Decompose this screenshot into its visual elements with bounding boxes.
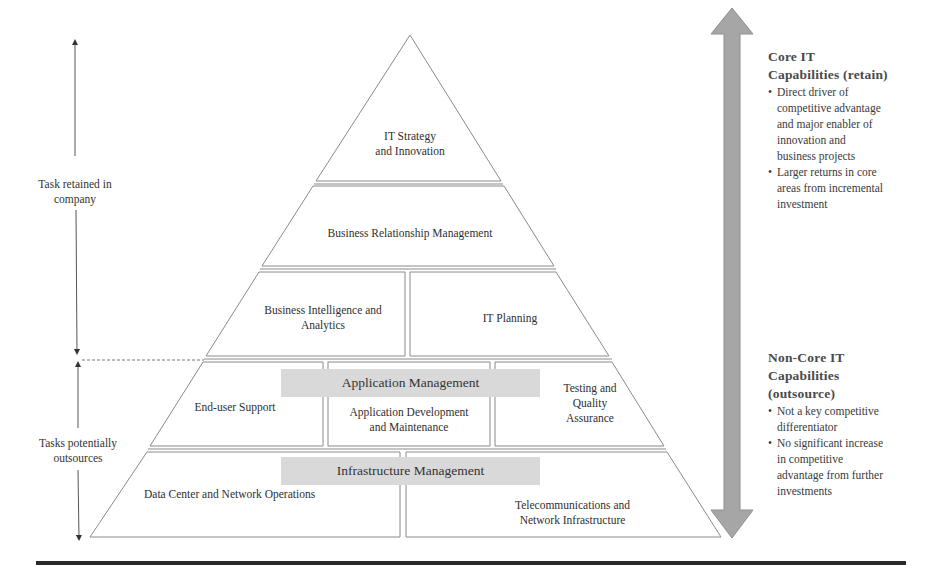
retained-label-line-2: company [30,192,120,207]
core-heading-line-2: Capabilities (retain) [768,66,928,84]
tier-4-center-label-line-2: and Maintenance [328,420,490,435]
tier-5-left-label: Data Center and Network Operations [144,487,364,502]
tier-5-right-label-line-2: Network Infrastructure [485,513,660,528]
noncore-heading-line-2: Capabilities [768,367,928,385]
noncore-bullet-2-line: in competitive [777,451,928,467]
core-bullet-2-line: Larger returns in core [777,164,928,180]
core-bullet-2: Larger returns in core areas from increm… [768,164,928,212]
core-bullet-1-line: innovation and [777,132,928,148]
core-bullet-1-line: Direct driver of [777,84,928,100]
retained-label-line-1: Task retained in [30,177,120,192]
noncore-bullet-2-line: advantage from further [777,467,928,483]
noncore-bullet-2: No significant increase in competitive a… [768,435,928,499]
tier-2-label: Business Relationship Management [290,226,530,241]
core-heading-line-1: Core IT [768,48,928,66]
tier-1-label-line-1: IT Strategy [340,129,480,144]
tier-4-right-label: Testing and Quality Assurance [540,381,640,426]
noncore-heading-line-3: (outsource) [768,385,928,403]
core-bullet-1: Direct driver of competitive advantage a… [768,84,928,164]
noncore-bullet-2-line: investments [777,483,928,499]
core-bullet-1-line: business projects [777,148,928,164]
tier-4-right-label-line-2: Quality [540,396,640,411]
application-management-band: Application Management [281,369,540,397]
tier-4-center-label: Application Development and Maintenance [328,405,490,435]
core-bullet-2-line: investment [777,196,928,212]
core-heading: Core IT Capabilities (retain) [768,48,928,84]
tier-4-center-label-line-1: Application Development [328,405,490,420]
tier-4-right-label-line-1: Testing and [540,381,640,396]
tier-3-left-label-line-2: Analytics [238,318,408,333]
core-bullet-1-line: competitive advantage [777,100,928,116]
infrastructure-management-band: Infrastructure Management [281,457,540,485]
noncore-bullet-1: Not a key competitive differentiator [768,403,928,435]
core-bullet-list: Direct driver of competitive advantage a… [768,84,928,212]
retained-label: Task retained in company [30,175,120,209]
tier-1-label: IT Strategy and Innovation [340,129,480,159]
tier-4-left-label: End-user Support [180,400,290,415]
noncore-heading-line-1: Non-Core IT [768,349,928,367]
outsource-label-line-2: outsources [30,451,126,466]
noncore-bullet-list: Not a key competitive differentiator No … [768,403,928,499]
core-noncore-double-arrow [711,8,753,538]
noncore-capabilities-panel: Non-Core IT Capabilities (outsource) Not… [768,349,928,499]
noncore-heading: Non-Core IT Capabilities (outsource) [768,349,928,403]
noncore-bullet-1-line: differentiator [777,419,928,435]
noncore-bullet-2-line: No significant increase [777,435,928,451]
tier-1-label-line-2: and Innovation [340,144,480,159]
core-bullet-2-line: areas from incremental [777,180,928,196]
core-capabilities-panel: Core IT Capabilities (retain) Direct dri… [768,48,928,212]
noncore-bullet-1-line: Not a key competitive [777,403,928,419]
tier-3-left-label-line-1: Business Intelligence and [238,303,408,318]
tier-3-left-label: Business Intelligence and Analytics [238,303,408,333]
outsource-label: Tasks potentially outsources [30,434,126,468]
tier-3-right-label: IT Planning [440,311,580,326]
bottom-divider-rule [36,561,906,565]
tier-1-shape [316,35,501,181]
tier-4-right-label-line-3: Assurance [540,411,640,426]
tier-5-right-label-line-1: Telecommunications and [485,498,660,513]
tier-5-right-label: Telecommunications and Network Infrastru… [485,498,660,528]
core-bullet-1-line: and major enabler of [777,116,928,132]
outsource-label-line-1: Tasks potentially [30,436,126,451]
